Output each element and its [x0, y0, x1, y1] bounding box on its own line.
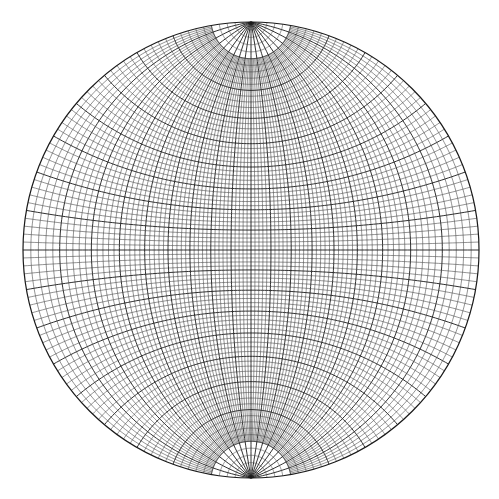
wulff-net — [0, 0, 499, 499]
major-grid-lines — [23, 22, 479, 478]
